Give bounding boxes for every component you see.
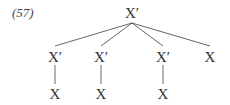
- child-node-1: X′: [48, 50, 62, 65]
- child-node-4: X: [205, 50, 216, 65]
- child-node-2: X′: [94, 50, 108, 65]
- leaf-node-3: X: [158, 87, 169, 102]
- leaf-node-2: X: [96, 87, 107, 102]
- edge-root-child-4: [132, 23, 210, 46]
- edge-root-child-1: [55, 23, 132, 46]
- edge-root-child-3: [132, 23, 163, 46]
- root-node: X′: [125, 6, 139, 21]
- edge-root-child-2: [101, 23, 132, 46]
- tree-edges: [0, 0, 230, 105]
- leaf-node-1: X: [50, 87, 61, 102]
- child-node-3: X′: [156, 50, 170, 65]
